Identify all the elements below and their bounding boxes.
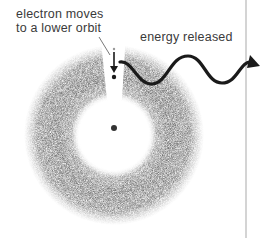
electron-origin — [113, 48, 115, 50]
label-line-2: to a lower orbit — [16, 21, 104, 35]
nucleus — [111, 125, 117, 131]
arrowhead-icon — [247, 55, 260, 68]
electron — [112, 75, 116, 79]
energy-released-label: energy released — [140, 30, 233, 44]
electron-moves-label: electron moves to a lower orbit — [16, 7, 104, 35]
label-line-1: electron moves — [16, 7, 104, 21]
atom-diagram: electron moves to a lower orbit energy r… — [0, 0, 261, 238]
